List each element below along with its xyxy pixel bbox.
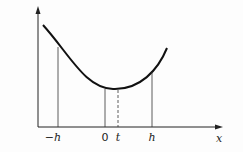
diagram-canvas: −h 0 t h x [0, 0, 243, 152]
tick-label-t: t [116, 131, 121, 144]
x-axis-label: x [216, 132, 223, 145]
tick-label-h: h [148, 131, 155, 144]
y-axis-arrow-icon [36, 6, 41, 14]
diagram-figure: −h 0 t h x [0, 0, 243, 152]
curve [43, 25, 167, 89]
x-axis-arrow-icon [215, 125, 223, 130]
tick-label-zero: 0 [102, 131, 109, 144]
tick-label-neg-h: −h [45, 131, 61, 144]
